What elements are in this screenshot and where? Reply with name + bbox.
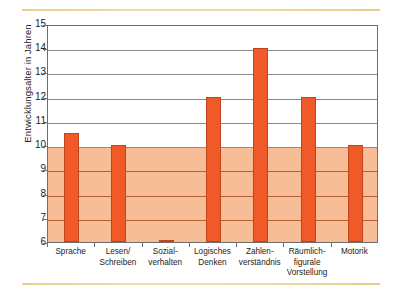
y-tick-mark-10 bbox=[43, 146, 47, 147]
bar-chart-figure: Entwicklungsalter in Jahren 678910111213… bbox=[0, 0, 402, 295]
x-tick-label: Räumlich-figuraleVorstellung bbox=[283, 247, 330, 279]
bar-series bbox=[48, 26, 377, 242]
y-tick-mark-14 bbox=[43, 49, 47, 50]
y-tick-mark-15 bbox=[43, 25, 47, 26]
bar bbox=[253, 48, 268, 242]
x-tick-label: Sozial-verhalten bbox=[142, 247, 189, 268]
y-tick-label-11: 11 bbox=[6, 115, 46, 126]
y-tick-mark-8 bbox=[43, 195, 47, 196]
y-tick-label-7: 7 bbox=[6, 212, 46, 223]
x-tick-label: LogischesDenken bbox=[189, 247, 236, 268]
y-tick-mark-9 bbox=[43, 170, 47, 171]
y-tick-label-9: 9 bbox=[6, 163, 46, 174]
bar bbox=[64, 133, 79, 242]
y-tick-label-6: 6 bbox=[6, 236, 46, 247]
y-tick-mark-11 bbox=[43, 122, 47, 123]
y-tick-mark-12 bbox=[43, 98, 47, 99]
x-tick-label: Zahlen-verständnis bbox=[236, 247, 283, 268]
bar bbox=[348, 145, 363, 242]
y-tick-label-13: 13 bbox=[6, 66, 46, 77]
y-tick-label-12: 12 bbox=[6, 91, 46, 102]
plot-area bbox=[47, 25, 378, 243]
y-tick-label-14: 14 bbox=[6, 42, 46, 53]
y-tick-label-10: 10 bbox=[6, 139, 46, 150]
y-tick-mark-13 bbox=[43, 73, 47, 74]
bar bbox=[206, 97, 221, 242]
y-tick-label-8: 8 bbox=[6, 188, 46, 199]
bar bbox=[111, 145, 126, 242]
x-tick-label: Sprache bbox=[47, 247, 94, 258]
y-tick-label-15: 15 bbox=[6, 18, 46, 29]
y-tick-mark-7 bbox=[43, 219, 47, 220]
x-tick-label: Lesen/Schreiben bbox=[94, 247, 141, 268]
bar bbox=[301, 97, 316, 242]
x-axis-labels: SpracheLesen/SchreibenSozial-verhaltenLo… bbox=[47, 247, 378, 293]
bar bbox=[159, 240, 174, 242]
x-tick-label: Motorik bbox=[331, 247, 378, 258]
